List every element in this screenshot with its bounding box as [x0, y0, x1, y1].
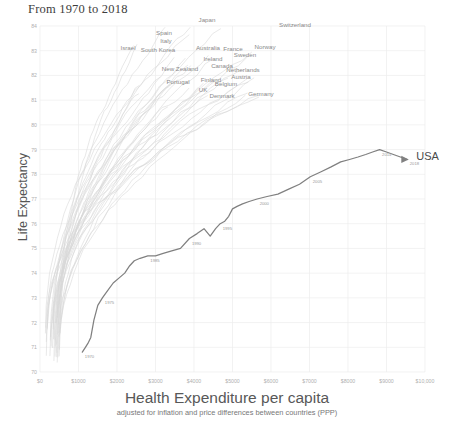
country-label-australia: Australia [196, 44, 221, 51]
country-label-norway: Norway [255, 43, 277, 50]
svg-text:2005: 2005 [313, 179, 323, 184]
svg-text:$9000: $9000 [379, 378, 394, 384]
x-axis-title: Health Expenditure per capita [0, 389, 454, 407]
svg-text:$6000: $6000 [264, 378, 279, 384]
usa-endpoint-arrow-icon [401, 156, 409, 163]
svg-text:80: 80 [31, 122, 37, 128]
svg-text:83: 83 [31, 48, 37, 54]
svg-text:1975: 1975 [105, 300, 115, 305]
svg-text:1985: 1985 [150, 258, 160, 263]
svg-text:$1000: $1000 [71, 378, 86, 384]
country-label-netherlands: Netherlands [226, 66, 259, 73]
svg-text:74: 74 [31, 270, 37, 276]
x-axis-subtitle: adjusted for inflation and price differe… [0, 408, 454, 417]
svg-text:$0: $0 [37, 378, 43, 384]
country-label-denmark: Denmark [209, 92, 235, 99]
svg-text:$2000: $2000 [110, 378, 125, 384]
usa-label: USA [416, 150, 439, 162]
svg-text:84: 84 [31, 23, 37, 29]
svg-text:77: 77 [31, 196, 37, 202]
country-label-portugal: Portugal [166, 78, 189, 85]
svg-text:72: 72 [31, 320, 37, 326]
svg-text:$8000: $8000 [341, 378, 356, 384]
svg-text:82: 82 [31, 72, 37, 78]
svg-text:$4000: $4000 [187, 378, 202, 384]
background-country-lines [45, 27, 259, 362]
svg-text:$5000: $5000 [225, 378, 240, 384]
svg-text:2014: 2014 [382, 152, 392, 157]
svg-text:2000: 2000 [260, 201, 270, 206]
country-label-austria: Austria [231, 73, 251, 80]
svg-text:81: 81 [31, 97, 37, 103]
svg-text:75: 75 [31, 245, 37, 251]
country-label-south-korea: South Korea [141, 46, 176, 53]
y-axis-title: Life Expectancy [16, 127, 30, 267]
svg-text:1970: 1970 [85, 354, 95, 359]
country-label-israel: Israel [120, 44, 135, 51]
country-label-spain: Spain [156, 29, 172, 36]
svg-text:70: 70 [31, 369, 37, 375]
x-axis-ticks: $0$1000$2000$3000$4000$5000$6000$7000$80… [37, 378, 434, 384]
chart-root: From 1970 to 2018 7071727374757677787980… [0, 0, 454, 429]
svg-text:$3000: $3000 [148, 378, 163, 384]
svg-text:78: 78 [31, 171, 37, 177]
country-label-japan: Japan [199, 16, 216, 23]
country-label-sweden: Sweden [234, 51, 257, 58]
country-label-uk: UK [199, 86, 208, 93]
svg-text:1995: 1995 [223, 226, 233, 231]
country-labels: JapanSwitzerlandSpainItalyIsraelSouth Ko… [120, 16, 311, 99]
svg-text:1990: 1990 [192, 241, 202, 246]
country-label-ireland: Ireland [204, 55, 223, 62]
country-label-italy: Italy [160, 37, 172, 44]
country-label-new-zealand: New Zealand [162, 65, 199, 72]
svg-text:$10,000: $10,000 [416, 378, 435, 384]
country-label-belgium: Belgium [215, 80, 237, 87]
svg-text:71: 71 [31, 344, 37, 350]
usa-series-line [82, 150, 407, 353]
svg-text:$7000: $7000 [302, 378, 317, 384]
svg-text:USA: USA [416, 150, 439, 162]
chart-plot-area: 707172737475767778798081828384 $0$1000$2… [0, 0, 454, 429]
svg-text:76: 76 [31, 221, 37, 227]
y-axis-ticks: 707172737475767778798081828384 [31, 23, 37, 375]
svg-text:79: 79 [31, 147, 37, 153]
country-label-switzerland: Switzerland [279, 21, 312, 28]
svg-text:73: 73 [31, 295, 37, 301]
country-label-germany: Germany [248, 90, 274, 97]
